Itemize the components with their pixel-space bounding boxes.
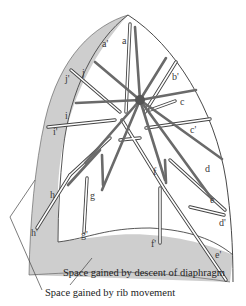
label-g-prime: g' <box>81 229 88 240</box>
label-h: h <box>50 189 55 200</box>
label-h-prime: h' <box>31 227 38 238</box>
star-hub <box>135 95 145 105</box>
label-f-prime: f' <box>151 238 156 249</box>
label-c-prime: c' <box>190 124 196 135</box>
label-e-prime: e' <box>215 249 221 260</box>
thorax-outline <box>29 15 233 282</box>
label-b-prime: b' <box>172 71 179 82</box>
thorax-expansion-diagram: a' a b' c c' d d' e e' f f' g g' h h' j … <box>0 0 246 306</box>
label-a: a <box>122 35 127 46</box>
label-i: i <box>65 110 68 121</box>
label-j-prime: j' <box>64 73 70 84</box>
label-j: j <box>81 67 85 78</box>
caption-ribs: Space gained by rib movement <box>45 287 175 298</box>
label-c: c <box>180 96 185 107</box>
label-d: d <box>205 163 210 174</box>
label-d-prime: d' <box>219 217 226 228</box>
label-i-prime: i' <box>53 126 58 137</box>
label-g: g <box>90 190 95 201</box>
label-a-prime: a' <box>102 38 108 49</box>
label-e: e <box>210 194 215 205</box>
caption-diaphragm: Space gained by descent of diaphragm <box>63 267 225 278</box>
